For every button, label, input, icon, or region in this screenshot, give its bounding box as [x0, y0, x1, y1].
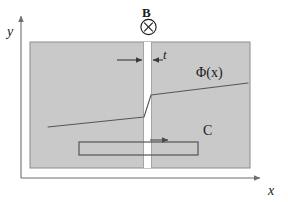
- physics-diagram: y x B t Φ(x) C: [0, 0, 288, 202]
- diagram-canvas: [0, 0, 288, 202]
- y-axis-label: y: [7, 25, 13, 39]
- magnetic-field-label: B: [142, 6, 151, 19]
- material-region: [30, 42, 250, 168]
- flux-function-label: Φ(x): [196, 66, 223, 80]
- thickness-label: t: [163, 48, 167, 61]
- x-axis-label: x: [268, 184, 274, 198]
- contour-label: C: [203, 124, 212, 138]
